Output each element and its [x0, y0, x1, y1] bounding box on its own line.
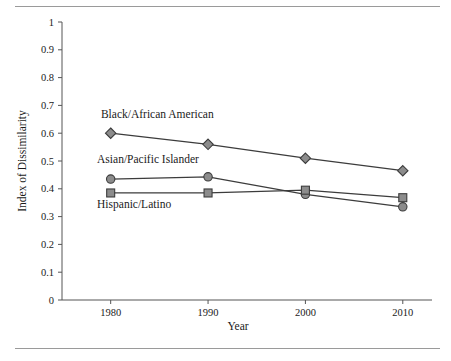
figure-container: 00.10.20.30.40.50.60.70.80.91 1980199020…	[0, 0, 451, 361]
series-line	[111, 190, 403, 198]
y-tick-label: 0.1	[41, 267, 54, 278]
x-tick-label: 1990	[198, 307, 219, 318]
line-chart: 00.10.20.30.40.50.60.70.80.91 1980199020…	[0, 0, 451, 361]
y-tick-label: 0.2	[41, 239, 54, 250]
series-label-1: Black/African American	[101, 108, 214, 120]
y-tick-label: 0.7	[41, 100, 54, 111]
data-point-marker-square	[204, 189, 212, 197]
series-label-2: Asian/Pacific Islander	[97, 153, 199, 165]
y-tick-label: 1	[49, 17, 54, 28]
x-tick-label: 2000	[295, 307, 316, 318]
data-point-marker-square	[399, 194, 407, 202]
data-point-marker-circle	[399, 203, 407, 211]
data-point-marker-circle	[106, 175, 114, 183]
y-axis: 00.10.20.30.40.50.60.70.80.91	[41, 17, 62, 306]
data-point-marker-diamond	[203, 139, 213, 149]
x-axis-title: Year	[227, 320, 248, 332]
series-label-3: Hispanic/Latino	[97, 198, 171, 211]
y-axis-title: Index of Dissimilarity	[16, 110, 29, 212]
y-tick-label: 0.3	[41, 211, 54, 222]
data-point-marker-square	[301, 186, 309, 194]
y-tick-label: 0.4	[41, 183, 55, 194]
data-point-marker-diamond	[105, 128, 115, 138]
y-tick-label: 0.8	[41, 72, 54, 83]
data-point-marker-diamond	[398, 166, 408, 176]
chart-svg: 00.10.20.30.40.50.60.70.80.91 1980199020…	[0, 0, 451, 361]
data-point-marker-circle	[204, 173, 212, 181]
y-tick-label: 0.5	[41, 156, 54, 167]
y-tick-label: 0.9	[41, 44, 54, 55]
data-point-marker-diamond	[300, 153, 310, 163]
y-tick-label: 0	[49, 295, 54, 306]
series-1	[105, 128, 408, 176]
x-axis: 1980199020002010	[62, 300, 432, 318]
data-point-marker-square	[107, 189, 115, 197]
y-tick-label: 0.6	[41, 128, 54, 139]
x-tick-label: 1980	[100, 307, 121, 318]
x-tick-label: 2010	[392, 307, 413, 318]
